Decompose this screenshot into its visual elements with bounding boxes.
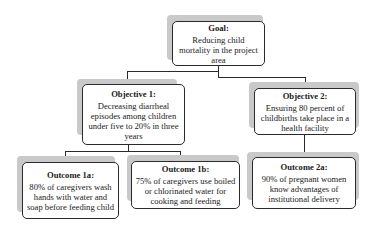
connector-goal-left xyxy=(127,71,218,72)
outcome-1b-box: Outcome 1b: 75% of caregivers use boiled… xyxy=(131,161,240,209)
connector-goal-right xyxy=(218,77,305,78)
outcome-2a-box: Outcome 2a: 90% of pregnant women know a… xyxy=(252,157,356,209)
objective-2-box: Objective 2: Ensuring 80 percent of chil… xyxy=(254,88,356,135)
outcome-1b-title: Outcome 1b: xyxy=(135,164,236,174)
goal-text: Reducing child mortality in the project … xyxy=(176,35,261,65)
objective-2-text: Ensuring 80 percent of childbirths take … xyxy=(258,103,352,133)
outcome-1a-text: 80% of caregivers wash hands with water … xyxy=(26,182,115,212)
connector-goal-down xyxy=(218,66,219,77)
outcome-1a-box: Outcome 1a: 80% of caregivers wash hands… xyxy=(22,162,119,219)
objective-1-box: Objective 1: Decreasing diarrheal episod… xyxy=(82,84,185,145)
objective-2-title: Objective 2: xyxy=(258,91,352,101)
objective-1-text: Decreasing diarrheal episodes among chil… xyxy=(86,101,181,141)
outcome-2a-title: Outcome 2a: xyxy=(256,162,352,172)
outcome-1b-text: 75% of caregivers use boiled or chlorina… xyxy=(135,176,236,206)
outcome-2a-text: 90% of pregnant women know advantages of… xyxy=(256,174,352,204)
goal-box: Goal: Reducing child mortality in the pr… xyxy=(172,21,265,66)
connector-outcomes-1 xyxy=(65,151,181,152)
goal-title: Goal: xyxy=(176,23,261,33)
outcome-1a-title: Outcome 1a: xyxy=(26,170,115,180)
objective-1-title: Objective 1: xyxy=(86,89,181,99)
